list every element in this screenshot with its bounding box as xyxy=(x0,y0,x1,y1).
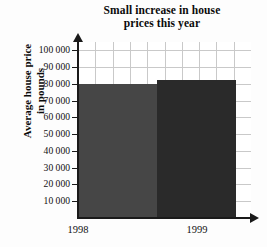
plot-area xyxy=(78,42,251,218)
y-axis-tick-label: 80 000 xyxy=(8,78,70,89)
y-axis-tick xyxy=(72,151,78,152)
y-axis-tick-label: 60 000 xyxy=(8,111,70,122)
y-axis-tick xyxy=(72,101,78,102)
y-axis-tick-label: 20 000 xyxy=(8,178,70,189)
y-axis-tick-label: 50 000 xyxy=(8,128,70,139)
y-axis-tick-label: 100 000 xyxy=(8,44,70,55)
y-axis-arrow-icon xyxy=(73,33,83,42)
y-axis-tick xyxy=(72,117,78,118)
bar-1999 xyxy=(157,80,236,218)
x-axis-label-1999: 1999 xyxy=(157,224,237,235)
y-axis-tick xyxy=(72,84,78,85)
x-axis-label-1998: 1998 xyxy=(38,224,118,235)
y-axis-tick-label: 40 000 xyxy=(8,145,70,156)
chart-title: Small increase in house prices this year xyxy=(62,4,262,29)
y-axis-tick-label: 90 000 xyxy=(8,61,70,72)
chart-canvas: Small increase in house prices this year… xyxy=(0,0,267,247)
y-axis-tick-label: 70 000 xyxy=(8,95,70,106)
y-axis-tick xyxy=(72,184,78,185)
chart-title-line-2: prices this year xyxy=(62,17,262,30)
y-axis-tick-label: 30 000 xyxy=(8,162,70,173)
x-axis-arrow-icon xyxy=(250,213,259,223)
y-axis-tick-labels: 10 00020 00030 00040 00050 00060 00070 0… xyxy=(8,0,70,247)
bar-1998 xyxy=(78,84,157,218)
y-axis-tick-label: 10 000 xyxy=(8,195,70,206)
y-axis-tick xyxy=(72,50,78,51)
y-axis-tick xyxy=(72,168,78,169)
chart-title-line-1: Small increase in house xyxy=(62,4,262,17)
x-axis-line xyxy=(78,217,252,219)
y-axis-tick xyxy=(72,201,78,202)
y-axis-tick xyxy=(72,134,78,135)
y-axis-tick xyxy=(72,67,78,68)
